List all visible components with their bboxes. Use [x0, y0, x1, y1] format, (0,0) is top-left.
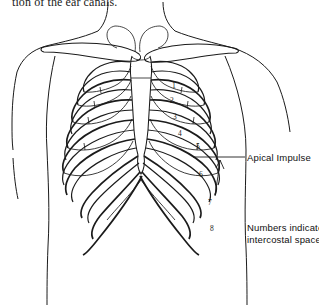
legend-line-2: intercostal spaces	[247, 234, 319, 246]
legend-intercostal-spaces: Numbers indicate intercostal spaces	[247, 222, 319, 245]
ribs-left	[63, 61, 142, 255]
ribs-right	[140, 61, 219, 255]
clavicles	[41, 26, 238, 62]
page-top-caption: tion of the ear canals.	[12, 0, 117, 10]
legend-line-1: Numbers indicate	[247, 222, 319, 234]
apical-impulse-label: Apical Impulse	[247, 152, 311, 163]
sternum	[130, 56, 151, 174]
chest-anatomy-figure: tion of the ear canals.	[0, 0, 319, 305]
